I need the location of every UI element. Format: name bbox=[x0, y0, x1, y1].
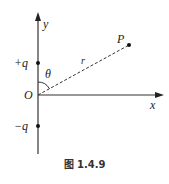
negative-charge-label: −q bbox=[14, 120, 28, 132]
positive-charge-label: +q bbox=[14, 57, 28, 69]
theta-arc bbox=[38, 82, 49, 89]
point-p-label: P bbox=[117, 33, 124, 45]
point-p-dot bbox=[127, 43, 131, 47]
r-dashed-line bbox=[38, 45, 129, 95]
dipole-field-diagram: y x O +q −q P r θ 图 1.4.9 bbox=[0, 0, 169, 184]
y-axis-label: y bbox=[43, 18, 48, 30]
y-axis-arrow-icon bbox=[35, 12, 41, 21]
negative-charge-dot bbox=[36, 124, 40, 128]
x-axis-arrow-icon bbox=[155, 92, 164, 98]
positive-charge-dot bbox=[36, 61, 40, 65]
distance-r-label: r bbox=[81, 56, 85, 66]
x-axis-label: x bbox=[150, 99, 155, 111]
origin-label: O bbox=[24, 89, 33, 101]
angle-theta-label: θ bbox=[45, 68, 51, 80]
figure-caption: 图 1.4.9 bbox=[0, 160, 169, 170]
